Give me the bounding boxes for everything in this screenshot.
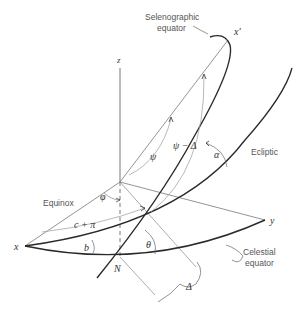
z-label: z [116, 55, 121, 65]
alpha-label: α [214, 149, 220, 160]
psi-minus-delta-label: ψ − Δ [173, 140, 197, 151]
diagram-canvas: Selenographic equator x' z ψ − Δ ψ α Ecl… [0, 0, 304, 316]
y-label: y [269, 215, 275, 226]
psi-arc [129, 119, 171, 175]
celestial-equator-curve [25, 220, 265, 255]
psi-label: ψ [150, 151, 157, 162]
selenographic-pointer [193, 26, 208, 34]
delta-label: Δ [185, 281, 192, 292]
line-origin-x [25, 182, 120, 246]
x-label: x [13, 241, 19, 252]
ecliptic-label: Ecliptic [251, 147, 279, 157]
line-N-delta [120, 257, 155, 295]
theta-label: θ [146, 239, 151, 250]
delta-brace [158, 262, 201, 302]
c-plus-pi-label: c + π [74, 219, 96, 230]
c-plus-pi-arrow-icon [140, 206, 145, 211]
selenographic-equator-curve [97, 36, 231, 278]
phi-label: φ [100, 191, 106, 202]
b-arc [92, 240, 94, 253]
celestial-label-1: Celestial [243, 247, 276, 257]
selenographic-label-2: equator [157, 23, 186, 33]
line-origin-xprime [120, 40, 228, 182]
N-label: N [113, 263, 122, 274]
selenographic-label-1: Selenographic [145, 12, 200, 22]
celestial-label-2: equator [245, 258, 274, 268]
celestial-equator-pointer [226, 245, 243, 262]
equinox-label: Equinox [43, 198, 74, 208]
x-prime-label: x' [233, 26, 241, 37]
line-origin-y [120, 182, 265, 220]
b-label: b [84, 242, 89, 253]
